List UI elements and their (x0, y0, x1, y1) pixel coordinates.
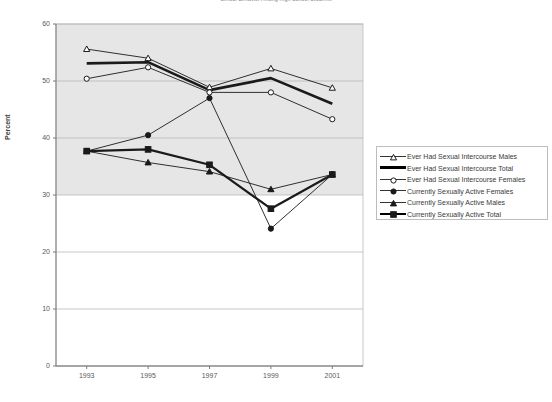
legend-key (380, 186, 406, 196)
data-point-square-filled (84, 148, 90, 154)
data-point-circle-open (391, 177, 396, 182)
x-tick-label: 1997 (190, 372, 230, 379)
legend-marker-triangle-open (389, 153, 398, 162)
legend-key (380, 209, 406, 219)
data-point-circle-open (268, 90, 273, 95)
legend-item[interactable]: Currently Sexually Active Total (380, 209, 544, 220)
data-point-circle-open (146, 65, 151, 70)
legend-item-label: Ever Had Sexual Intercourse Males (406, 152, 517, 161)
legend-marker-square-filled (389, 210, 398, 219)
y-tick-label: 10 (26, 305, 50, 312)
legend-marker-triangle-filled (389, 199, 398, 208)
plot-band-lower (56, 195, 363, 366)
legend-key (380, 152, 406, 162)
data-point-square-filled (145, 147, 151, 153)
data-point-triangle-open (390, 154, 396, 160)
legend-key (380, 163, 406, 173)
data-point-circle-filled (146, 133, 151, 138)
y-tick-label: 60 (26, 20, 50, 27)
legend-marker-circle-open (389, 176, 398, 185)
legend-item[interactable]: Ever Had Sexual Intercourse Males (380, 151, 544, 162)
data-point-square-filled (207, 162, 213, 168)
x-tick-label: 2001 (312, 372, 352, 379)
y-tick-label: 30 (26, 191, 50, 198)
legend-item[interactable]: Currently Sexually Active Females (380, 186, 544, 197)
y-tick-label: 50 (26, 77, 50, 84)
data-point-circle-filled (268, 226, 273, 231)
data-point-circle-open (84, 76, 89, 81)
legend-key (380, 198, 406, 208)
chart-container: Sexual Behavior Among High School Studen… (0, 0, 552, 402)
legend-marker-circle-filled (389, 187, 398, 196)
data-point-circle-filled (207, 96, 212, 101)
legend-item-label: Currently Sexually Active Females (406, 187, 513, 196)
data-point-square-filled (268, 206, 274, 212)
x-tick-label: 1995 (128, 372, 168, 379)
x-tick-label: 1993 (67, 372, 107, 379)
legend-line-swatch (380, 166, 406, 169)
data-point-circle-open (330, 117, 335, 122)
data-point-triangle-filled (390, 200, 396, 206)
legend-item-label: Ever Had Sexual Intercourse Total (406, 164, 513, 173)
data-point-circle-filled (391, 189, 396, 194)
legend-item-label: Currently Sexually Active Males (406, 198, 505, 207)
legend-item-label: Currently Sexually Active Total (406, 210, 501, 219)
legend-key (380, 175, 406, 185)
data-point-square-filled (391, 212, 397, 218)
data-point-circle-open (207, 90, 212, 95)
y-tick-label: 0 (26, 362, 50, 369)
chart-legend: Ever Had Sexual Intercourse MalesEver Ha… (376, 146, 548, 220)
y-tick-label: 40 (26, 134, 50, 141)
y-tick-label: 20 (26, 248, 50, 255)
legend-item[interactable]: Ever Had Sexual Intercourse Total (380, 163, 544, 174)
legend-item-label: Ever Had Sexual Intercourse Females (406, 175, 525, 184)
legend-item[interactable]: Currently Sexually Active Males (380, 197, 544, 208)
legend-item[interactable]: Ever Had Sexual Intercourse Females (380, 174, 544, 185)
x-tick-label: 1999 (251, 372, 291, 379)
data-point-square-filled (330, 172, 336, 178)
